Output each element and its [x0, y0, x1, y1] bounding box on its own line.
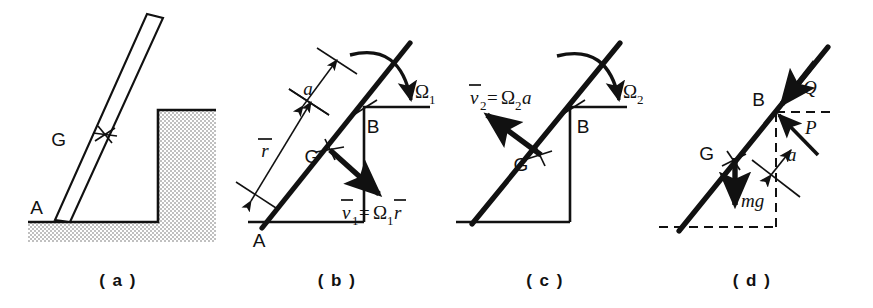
panel-b-label-omega-sub: 1	[429, 92, 436, 107]
panel-c-veq-v-sub: 2	[480, 98, 487, 113]
panel-b-velocity-equation: v 1 = Ω 1 r	[341, 200, 406, 228]
panel-d-label-weight: mg	[741, 190, 764, 211]
panel-c-velocity-equation: v 2 = Ω 2 a	[469, 85, 532, 113]
panel-c-label-omega-symbol: Ω	[623, 81, 637, 102]
panel-c-omega-arc	[557, 54, 619, 100]
panel-b-label-omega-symbol: Ω	[415, 81, 429, 102]
panel-a-caption: ( a )	[99, 271, 137, 290]
panel-c-veq-a: a	[522, 87, 532, 108]
panel-b-veq-v: v	[342, 202, 351, 223]
panel-b-label-dim-r-text: r	[261, 140, 269, 161]
panel-b-caption: ( b )	[318, 271, 357, 290]
panel-b-label-dim-r: r	[258, 139, 272, 161]
panel-b-veq-omega: Ω	[373, 202, 387, 223]
panel-c: B G Ω 2 v 2 = Ω 2 a ( c )	[456, 43, 644, 290]
panel-c-label-b-point: B	[577, 116, 590, 137]
figure-root: G A ( a )	[0, 0, 873, 308]
panel-b-label-b-point: B	[367, 116, 380, 137]
panel-b-label-g-point: G	[305, 146, 320, 167]
panel-b-label-a-point: A	[253, 230, 266, 251]
panel-d-label-b-point: B	[752, 89, 765, 110]
panel-c-caption: ( c )	[526, 271, 564, 290]
panel-d-label-force-p: P	[804, 117, 817, 138]
panel-c-velocity-vector	[487, 115, 541, 155]
panel-c-veq-omega-sub: 2	[515, 98, 522, 113]
panel-d-caption: ( d )	[733, 271, 772, 290]
panel-b-veq-r: r	[394, 202, 402, 223]
panel-b-rod	[262, 43, 410, 228]
panel-c-label-omega-sub: 2	[637, 92, 644, 107]
panel-b-veq-v-sub: 1	[352, 213, 359, 228]
panel-b-label-dim-a: a	[303, 78, 313, 99]
figure-canvas: G A ( a )	[0, 0, 873, 308]
panel-b-velocity-vector	[330, 150, 379, 194]
panel-d-label-g-point: G	[699, 143, 714, 164]
panel-a-label-g: G	[51, 129, 66, 150]
panel-c-veq-equals: =	[487, 87, 498, 108]
panel-c-label-omega: Ω 2	[623, 81, 644, 107]
panel-c-veq-omega: Ω	[501, 87, 515, 108]
panel-a: G A ( a )	[28, 14, 216, 290]
panel-c-rod	[472, 43, 620, 224]
panel-d-label-angle-a: a	[787, 144, 797, 165]
panel-c-label-g-point: G	[514, 154, 529, 175]
panel-a-label-a-point: A	[30, 197, 43, 218]
panel-b-label-omega: Ω 1	[415, 81, 436, 107]
panel-b-veq-equals: =	[359, 202, 370, 223]
panel-d-label-force-q: Q	[803, 77, 817, 98]
panel-b-dim-a	[289, 48, 357, 115]
panel-a-rod	[55, 14, 163, 222]
panel-b: A B G a r Ω 1 v 1 = Ω 1 r	[236, 43, 436, 290]
panel-d: B G Q P a mg ( d )	[659, 47, 833, 290]
panel-c-veq-v: v	[470, 87, 479, 108]
panel-b-veq-omega-sub: 1	[387, 213, 394, 228]
